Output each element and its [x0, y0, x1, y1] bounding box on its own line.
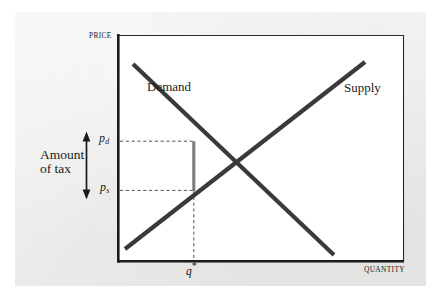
- supply-curve-label: Supply: [344, 81, 381, 94]
- equilibrium-quantity-label: q*: [186, 262, 197, 277]
- y-axis-label: PRICE: [89, 32, 112, 39]
- qstar-asterisk: *: [192, 260, 197, 271]
- demand-price-label: pd: [99, 132, 109, 144]
- x-axis-label: QUANTITY: [364, 266, 405, 273]
- ps-subscript: s: [106, 186, 109, 195]
- demand-curve-label: Demand: [147, 80, 191, 93]
- tax-annotation-line2: of tax: [40, 162, 84, 176]
- qstar-base: q: [186, 265, 192, 277]
- supply-price-label: ps: [100, 181, 109, 193]
- figure-page: PRICE QUANTITY Demand Supply pd ps q* Am…: [0, 0, 443, 296]
- pd-subscript: d: [105, 137, 109, 146]
- tax-annotation-line1: Amount: [40, 147, 84, 162]
- plot-area: [117, 35, 404, 262]
- tax-amount-annotation: Amount of tax: [40, 148, 84, 175]
